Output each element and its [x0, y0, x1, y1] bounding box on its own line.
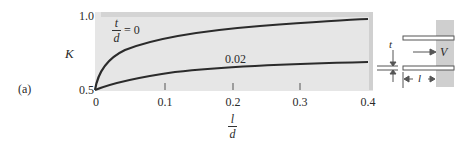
curve-label-num: t: [115, 17, 118, 29]
x-axis-label-den: d: [230, 128, 236, 140]
curve-label-t-d-0: t d = 0: [112, 17, 140, 44]
x-tick-0-1: 0.1: [158, 95, 173, 110]
inset-velocity-label: V: [440, 45, 447, 60]
y-axis-label: K: [65, 46, 74, 62]
inset-length-label: l: [418, 72, 421, 84]
curve-label-eq: = 0: [124, 23, 140, 38]
curve-label-0-02: 0.02: [225, 52, 246, 67]
x-axis-label: l d: [228, 113, 237, 140]
x-tick-0-3: 0.3: [293, 95, 308, 110]
y-tick-0-5: 0.5: [79, 83, 94, 98]
x-tick-0-2: 0.2: [226, 95, 241, 110]
y-tick-1-0: 1.0: [79, 9, 94, 24]
x-axis-label-num: l: [231, 113, 234, 125]
curve-label-den: d: [114, 32, 120, 44]
panel-label: (a): [18, 82, 31, 97]
inset-thickness-label: t: [389, 38, 392, 50]
x-tick-0-4: 0.4: [361, 95, 376, 110]
curve-label-fraction: t d: [112, 17, 121, 44]
x-tick-0: 0: [93, 95, 99, 110]
